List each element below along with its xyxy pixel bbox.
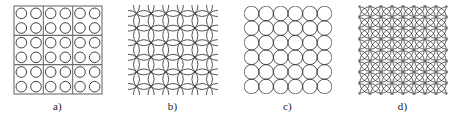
panel-b: b) [115,0,230,126]
figure-circle-packing-patterns: a) b) c) d) [0,0,462,126]
panel-d-artwork [345,0,460,100]
panel-c-artwork [230,0,345,100]
panel-a-diagram [8,0,108,100]
panel-d-diagram [353,0,453,100]
panel-a-artwork [0,0,115,100]
panel-d: d) [345,0,460,126]
panel-c-label: c) [283,101,292,112]
panel-b-artwork [115,0,230,100]
panel-c-diagram [238,0,338,100]
panel-c: c) [230,0,345,126]
panel-a-label: a) [53,101,62,112]
panel-b-label: b) [168,101,178,112]
panel-b-diagram [123,0,223,100]
panel-a: a) [0,0,115,126]
panel-d-label: d) [398,101,408,112]
